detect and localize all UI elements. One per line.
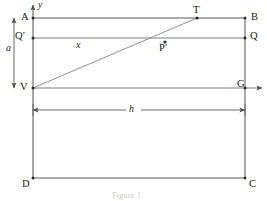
vertex-dot-T (195, 16, 198, 19)
vertex-dot-A (32, 17, 35, 20)
diagonal-V-T (33, 18, 197, 88)
vertex-label-G: G (237, 79, 245, 90)
y-axis-label: y (38, 1, 42, 11)
vertex-dot-V (32, 87, 35, 90)
vertex-label-D: D (22, 179, 30, 190)
vertex-label-T: T (193, 5, 200, 16)
dimension-label-h: h (129, 104, 134, 114)
vertex-label-Q: Q (250, 31, 258, 42)
dimension-label-a: a (6, 43, 11, 53)
figure-canvas: y A B C D Q′ Q V G T P′ a h x Figure 1 (0, 0, 267, 201)
vertex-dot-D (32, 177, 35, 180)
vertex-label-C: C (249, 179, 256, 190)
geometry-drawing (0, 0, 267, 201)
vertex-dot-B (244, 17, 247, 20)
vertex-label-Pprime: P′ (159, 43, 168, 54)
vertex-dot-Q (244, 37, 247, 40)
vertex-label-A: A (21, 12, 29, 23)
vertex-label-V: V (20, 82, 28, 93)
vertex-dot-Qprime (32, 37, 35, 40)
vertex-label-B: B (251, 12, 258, 23)
segment-label-x: x (76, 40, 81, 50)
figure-caption: Figure 1 (112, 191, 141, 200)
vertex-label-Qprime: Q′ (15, 31, 25, 42)
vertex-dot-C (244, 177, 247, 180)
